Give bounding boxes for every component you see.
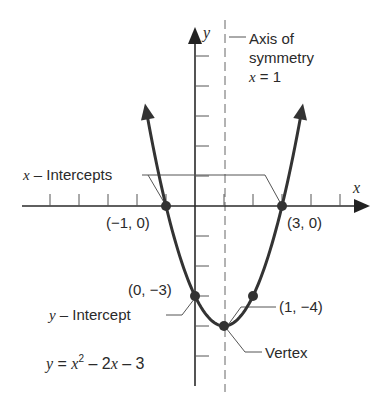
x-intercepts-label: x – Intercepts [22,166,112,183]
vertex-leader [226,328,262,352]
data-point [219,321,229,331]
data-point [190,291,200,301]
y-intercept-label: y – Intercept [47,306,132,323]
axis-of-symmetry-equation: x = 1 [248,68,281,85]
vertex-label: Vertex [265,344,308,361]
axis-of-symmetry-label-line1: Axis of [249,30,295,47]
point-label-neg1-0: (−1, 0) [106,214,150,231]
x-axis-arrow-icon [354,199,370,213]
point-label-0-neg3: (0, −3) [128,281,172,298]
parabola-chart: y x Axis of symmetry x = 1 x – Intercept… [0,0,381,401]
y-axis-arrow-icon [188,27,202,44]
axis-of-symmetry-label-line2: symmetry [249,49,314,66]
data-point [277,201,287,211]
y-intercept-leader [166,298,195,315]
equation-label: y = x2 – 2x – 3 [44,353,145,373]
data-point [161,201,171,211]
x-axis-label: x [352,179,360,196]
x-axis [22,194,370,213]
curve-arrow-right-icon [293,104,307,121]
point-label-3-0: (3, 0) [287,214,322,231]
data-point [248,291,258,301]
curve-arrow-left-icon [141,104,155,121]
point-label-1-neg4: (1, −4) [279,298,323,315]
key-points [161,201,287,331]
y-axis-label: y [201,24,211,42]
